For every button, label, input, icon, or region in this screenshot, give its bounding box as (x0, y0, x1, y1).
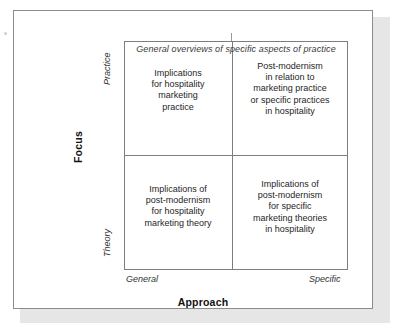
x-axis-label-specific: Specific (309, 274, 341, 284)
matrix-horizontal-divider (125, 155, 347, 156)
x-axis-label-general: General (126, 274, 158, 284)
quadrant-bottom-left: Implications ofpost-modernismfor hospita… (126, 184, 230, 229)
y-axis-label-practice: Practice (102, 52, 112, 85)
y-axis-title: Focus (72, 131, 84, 163)
quadrant-top-left: Implicationsfor hospitalitymarketingprac… (126, 68, 230, 113)
matrix-vertical-divider (232, 42, 233, 269)
quadrant-top-right: Post-modernismin relation tomarketing pr… (234, 61, 346, 117)
x-axis-title: Approach (178, 296, 229, 308)
figure-canvas: Focus Practice Theory General overviews … (0, 0, 399, 331)
scan-artifact-speck (4, 32, 7, 35)
figure-frame: Focus Practice Theory General overviews … (13, 10, 373, 309)
axis-tick-mark (231, 33, 232, 41)
matrix-caption: General overviews of specific aspects of… (128, 44, 344, 55)
y-axis-label-theory: Theory (102, 229, 112, 257)
quadrant-bottom-right: Implications ofpost-modernismfor specifi… (234, 179, 346, 235)
